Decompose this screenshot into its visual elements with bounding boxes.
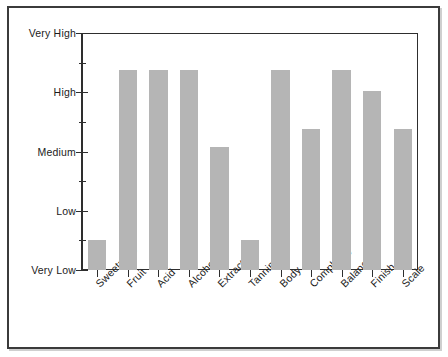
bar-sweetness <box>88 240 106 270</box>
bar-fruit <box>119 70 137 270</box>
y-axis-tick-label: Very Low <box>0 264 76 276</box>
y-axis-tick-label: Very High <box>0 27 76 39</box>
bar-alcohol <box>180 70 198 270</box>
y-axis-minor-tick <box>79 122 86 123</box>
wine-profile-bar-chart: Very LowLowMediumHighVery High Sweetness… <box>0 0 448 357</box>
y-axis-minor-tick <box>79 181 86 182</box>
bar-finish <box>363 91 381 270</box>
bar-balance <box>332 70 350 270</box>
bar-body <box>271 70 289 270</box>
bar-extract <box>210 147 228 270</box>
bar-complexity <box>302 129 320 270</box>
y-axis-minor-tick <box>79 63 86 64</box>
bar-tannin <box>241 240 259 270</box>
bar-scale <box>394 129 412 270</box>
y-axis-tick-label: Low <box>0 205 76 217</box>
y-axis-spine <box>81 33 82 270</box>
bar-acid <box>149 70 167 270</box>
y-axis-tick-label: High <box>0 86 76 98</box>
y-axis-tick-label: Medium <box>0 146 76 158</box>
y-axis-minor-tick <box>79 240 86 241</box>
